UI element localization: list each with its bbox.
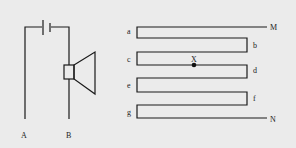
point-x-label: X: [191, 55, 197, 64]
label-b: b: [253, 41, 257, 50]
label-g: g: [127, 108, 131, 117]
terminal-b-label: B: [66, 131, 71, 140]
label-m: M: [270, 23, 277, 32]
label-c: c: [127, 55, 131, 64]
wire-b: [51, 27, 69, 65]
label-e: e: [127, 81, 131, 90]
wire-a: [25, 27, 42, 119]
label-f: f: [253, 94, 256, 103]
speaker-icon: [64, 65, 74, 79]
speaker-cone: [74, 52, 95, 94]
serpentine-wire: [137, 27, 267, 118]
terminal-a-label: A: [21, 131, 27, 140]
circuit: [25, 20, 95, 119]
label-a: a: [127, 27, 131, 36]
diagram: A B X a c e g b d f M N: [0, 0, 296, 148]
label-n: N: [270, 115, 276, 124]
label-d: d: [253, 66, 257, 75]
